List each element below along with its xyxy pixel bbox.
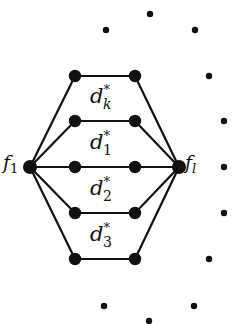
- left-end-label: f1: [1, 151, 18, 176]
- ellipsis-dot: [103, 27, 109, 33]
- path-node: [69, 115, 81, 127]
- path-edge-right: [135, 121, 179, 167]
- path-node: [129, 161, 141, 173]
- ellipsis-dot: [192, 27, 198, 33]
- path-node: [69, 253, 81, 265]
- path-edge-left: [30, 167, 75, 213]
- path-edge-left: [30, 76, 75, 167]
- path-bundle-diagram: f1 fl d*kd*1d*2d*3: [0, 0, 237, 324]
- path-edge-right: [135, 76, 179, 167]
- ellipsis-dot: [101, 303, 107, 309]
- path-node: [129, 115, 141, 127]
- ellipsis-dot: [221, 210, 227, 216]
- region-label: d*1: [90, 128, 112, 158]
- right-end-label: fl: [183, 151, 196, 176]
- path-node: [69, 161, 81, 173]
- path-edge-right: [135, 167, 179, 213]
- path-node: [69, 70, 81, 82]
- path-node: [129, 70, 141, 82]
- path-node: [69, 207, 81, 219]
- end-node-fl: [172, 160, 186, 174]
- path-edge-left: [30, 121, 75, 167]
- end-node-f1: [23, 160, 37, 174]
- region-label: d*3: [90, 220, 112, 250]
- path-edge-right: [135, 167, 179, 259]
- path-node: [129, 207, 141, 219]
- region-label: d*k: [90, 82, 111, 112]
- path-node: [129, 253, 141, 265]
- region-label: d*2: [90, 174, 112, 204]
- ellipsis-dot: [221, 118, 227, 124]
- ellipsis-dot: [221, 164, 227, 170]
- ellipsis-dot: [147, 11, 153, 17]
- ellipsis-dot: [191, 303, 197, 309]
- ellipsis-dot: [146, 318, 152, 324]
- path-edge-left: [30, 167, 75, 259]
- ellipsis-dot: [206, 256, 212, 262]
- ellipsis-dot: [206, 73, 212, 79]
